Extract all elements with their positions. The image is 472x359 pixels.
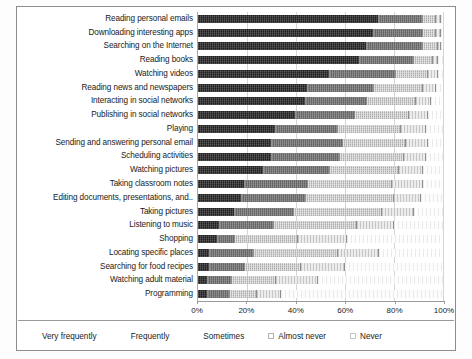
bar-segment[interactable]	[330, 70, 396, 78]
bar-segment[interactable]	[198, 221, 220, 229]
bar-segment[interactable]	[230, 290, 257, 298]
stacked-bar[interactable]	[198, 153, 443, 161]
stacked-bar[interactable]	[198, 235, 443, 243]
stacked-bar[interactable]	[198, 29, 443, 37]
bar-segment[interactable]	[428, 139, 443, 147]
bar-segment[interactable]	[296, 111, 355, 119]
bar-segment[interactable]	[274, 221, 357, 229]
stacked-bar[interactable]	[198, 125, 443, 133]
bar-segment[interactable]	[423, 84, 435, 92]
stacked-bar[interactable]	[198, 111, 443, 119]
bar-segment[interactable]	[198, 125, 276, 133]
bar-segment[interactable]	[340, 153, 404, 161]
bar-segment[interactable]	[423, 15, 435, 23]
bar-segment[interactable]	[421, 194, 443, 202]
bar-segment[interactable]	[441, 42, 443, 50]
bar-segment[interactable]	[338, 125, 402, 133]
bar-segment[interactable]	[414, 208, 443, 216]
bar-segment[interactable]	[306, 194, 394, 202]
stacked-bar[interactable]	[198, 139, 443, 147]
stacked-bar[interactable]	[198, 276, 443, 284]
bar-segment[interactable]	[198, 153, 272, 161]
bar-segment[interactable]	[416, 97, 431, 105]
bar-segment[interactable]	[396, 70, 428, 78]
bar-segment[interactable]	[208, 290, 230, 298]
stacked-bar[interactable]	[198, 166, 443, 174]
bar-segment[interactable]	[254, 249, 337, 257]
bar-segment[interactable]	[218, 235, 235, 243]
stacked-bar[interactable]	[198, 56, 443, 64]
bar-segment[interactable]	[379, 249, 443, 257]
bar-segment[interactable]	[355, 111, 409, 119]
bar-segment[interactable]	[406, 139, 428, 147]
bar-segment[interactable]	[401, 125, 426, 133]
bar-segment[interactable]	[198, 235, 218, 243]
bar-segment[interactable]	[198, 166, 264, 174]
bar-segment[interactable]	[245, 180, 309, 188]
bar-segment[interactable]	[198, 84, 308, 92]
bar-segment[interactable]	[423, 166, 443, 174]
bar-segment[interactable]	[318, 276, 443, 284]
bar-segment[interactable]	[220, 221, 274, 229]
bar-segment[interactable]	[242, 194, 306, 202]
stacked-bar[interactable]	[198, 84, 443, 92]
bar-segment[interactable]	[382, 208, 414, 216]
bar-segment[interactable]	[308, 180, 391, 188]
bar-segment[interactable]	[438, 56, 443, 64]
bar-segment[interactable]	[374, 29, 423, 37]
bar-segment[interactable]	[423, 29, 435, 37]
bar-segment[interactable]	[431, 97, 443, 105]
bar-segment[interactable]	[257, 290, 282, 298]
legend-item[interactable]: Very frequently	[32, 332, 97, 341]
bar-segment[interactable]	[264, 166, 330, 174]
bar-segment[interactable]	[294, 208, 382, 216]
bar-segment[interactable]	[198, 249, 210, 257]
bar-segment[interactable]	[345, 263, 443, 271]
bar-segment[interactable]	[198, 29, 374, 37]
bar-segment[interactable]	[436, 84, 443, 92]
bar-segment[interactable]	[347, 235, 443, 243]
bar-segment[interactable]	[428, 111, 443, 119]
bar-segment[interactable]	[394, 194, 421, 202]
bar-segment[interactable]	[235, 235, 299, 243]
bar-segment[interactable]	[198, 276, 208, 284]
bar-segment[interactable]	[360, 56, 414, 64]
bar-segment[interactable]	[392, 180, 424, 188]
bar-segment[interactable]	[198, 263, 210, 271]
stacked-bar[interactable]	[198, 208, 443, 216]
legend-item[interactable]: Never	[350, 332, 382, 341]
bar-segment[interactable]	[198, 139, 272, 147]
bar-segment[interactable]	[276, 125, 337, 133]
bar-segment[interactable]	[379, 15, 423, 23]
stacked-bar[interactable]	[198, 263, 443, 271]
stacked-bar[interactable]	[198, 221, 443, 229]
bar-segment[interactable]	[198, 56, 360, 64]
bar-segment[interactable]	[276, 276, 318, 284]
bar-segment[interactable]	[306, 97, 367, 105]
stacked-bar[interactable]	[198, 249, 443, 257]
legend-item[interactable]: Frequently	[121, 332, 170, 341]
bar-segment[interactable]	[426, 125, 443, 133]
bar-segment[interactable]	[404, 153, 426, 161]
bar-segment[interactable]	[198, 15, 379, 23]
bar-segment[interactable]	[343, 139, 407, 147]
bar-segment[interactable]	[208, 276, 233, 284]
bar-segment[interactable]	[374, 84, 423, 92]
bar-segment[interactable]	[357, 221, 394, 229]
bar-segment[interactable]	[338, 249, 380, 257]
bar-segment[interactable]	[210, 263, 244, 271]
bar-segment[interactable]	[441, 29, 443, 37]
bar-segment[interactable]	[394, 221, 443, 229]
legend-item[interactable]: Almost never	[268, 332, 326, 341]
bar-segment[interactable]	[441, 15, 443, 23]
bar-segment[interactable]	[198, 194, 242, 202]
bar-segment[interactable]	[399, 166, 424, 174]
bar-segment[interactable]	[210, 249, 254, 257]
bar-segment[interactable]	[272, 139, 343, 147]
stacked-bar[interactable]	[198, 180, 443, 188]
bar-segment[interactable]	[232, 276, 276, 284]
stacked-bar[interactable]	[198, 194, 443, 202]
stacked-bar[interactable]	[198, 97, 443, 105]
bar-segment[interactable]	[198, 111, 296, 119]
bar-segment[interactable]	[423, 42, 438, 50]
